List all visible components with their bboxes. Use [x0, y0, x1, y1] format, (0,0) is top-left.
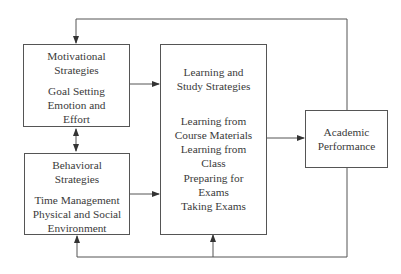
motivational-item: Effort [24, 112, 129, 126]
learning-item: Exams [161, 185, 266, 199]
motivational-item: Emotion and [24, 98, 129, 112]
learning-item: Taking Exams [161, 199, 266, 213]
learning-item: Learning from [161, 114, 266, 128]
behavioral-title-line: Strategies [25, 172, 129, 186]
learning-item: Preparing for [161, 171, 266, 185]
learning-item: Class [161, 156, 266, 170]
academic-title-line: Academic [306, 125, 387, 139]
motivational-item: Goal Setting [24, 84, 129, 98]
academic-title: Academic Performance [306, 125, 387, 154]
academic-performance-box: Academic Performance [305, 110, 388, 168]
behavioral-strategies-box: Behavioral Strategies Time Management Ph… [24, 153, 130, 235]
learning-title-line: Study Strategies [161, 79, 266, 93]
learning-item: Course Materials [161, 128, 266, 142]
behavioral-item: Physical and Social [25, 207, 129, 221]
learning-study-strategies-box: Learning and Study Strategies Learning f… [160, 44, 267, 235]
motivational-title: Motivational Strategies [24, 49, 129, 78]
motivational-strategies-box: Motivational Strategies Goal Setting Emo… [23, 44, 130, 127]
behavioral-title-line: Behavioral [25, 158, 129, 172]
behavioral-item: Environment [25, 221, 129, 235]
learning-title: Learning and Study Strategies [161, 65, 266, 94]
behavioral-title: Behavioral Strategies [25, 158, 129, 187]
motivational-title-line: Motivational [24, 49, 129, 63]
behavioral-items: Time Management Physical and Social Envi… [25, 193, 129, 236]
learning-items: Learning from Course Materials Learning … [161, 114, 266, 214]
motivational-items: Goal Setting Emotion and Effort [24, 84, 129, 127]
diagram-canvas: Motivational Strategies Goal Setting Emo… [0, 0, 401, 274]
learning-item: Learning from [161, 142, 266, 156]
motivational-title-line: Strategies [24, 63, 129, 77]
learning-title-line: Learning and [161, 65, 266, 79]
behavioral-item: Time Management [25, 193, 129, 207]
academic-title-line: Performance [306, 139, 387, 153]
